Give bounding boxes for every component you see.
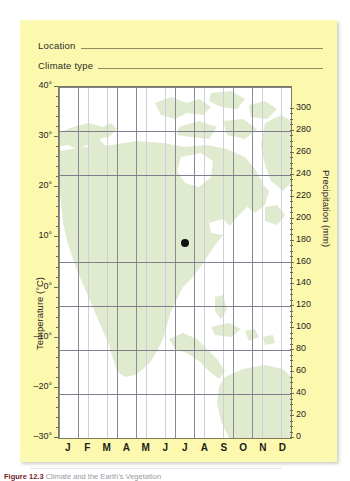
temp-tick-minor [56,246,59,247]
temp-tick-minor [56,156,59,157]
precip-tick-minor [290,223,293,224]
temperature-axis-labels: 40°30°20°10°0°–10°–20°–30° [20,86,52,437]
precipitation-tick-280: 280 [296,125,311,134]
location-write-line[interactable] [81,48,323,49]
precip-tick-major [290,218,294,219]
precip-tick-major [290,174,294,175]
precipitation-tick-60: 60 [296,366,306,375]
precip-tick-minor [290,141,293,142]
precip-tick-minor [290,190,293,191]
temp-tick-minor [56,397,59,398]
precip-tick-minor [290,366,293,367]
precip-tick-minor [290,113,293,114]
temp-tick-major [54,186,58,187]
month-label-8: S [214,440,234,456]
temp-tick-minor [56,307,59,308]
temp-tick-minor [56,317,59,318]
climograph-worksheet-card: Location Climate type [20,20,337,462]
temperature-tick-10: 10° [38,231,52,240]
precip-tick-minor [290,432,293,433]
temperature-tick-40: 40° [38,81,52,90]
temp-tick-minor [56,116,59,117]
temp-tick-minor [56,206,59,207]
temp-tick-minor [56,146,59,147]
precip-tick-minor [290,311,293,312]
month-label-10: N [253,440,273,456]
precip-tick-major [290,327,294,328]
precipitation-tick-260: 260 [296,147,311,156]
precip-tick-major [290,152,294,153]
climate-type-write-line[interactable] [98,68,323,69]
temp-tick-major [54,337,58,338]
temp-tick-minor [56,126,59,127]
month-label-7: A [195,440,215,456]
month-label-9: O [234,440,254,456]
precipitation-tick-240: 240 [296,169,311,178]
precipitation-tick-180: 180 [296,235,311,244]
climate-type-label: Climate type [38,60,93,71]
temp-tick-minor [56,297,59,298]
north-america-map-shape [59,87,291,438]
precip-tick-minor [290,278,293,279]
precip-tick-minor [290,124,293,125]
caption-rule [30,468,282,469]
locator-map [59,87,291,438]
figure-caption: Figure 12.3 Climate and the Earth’s Vege… [4,472,344,481]
location-field-row[interactable]: Location [38,37,323,51]
temp-tick-minor [56,256,59,257]
location-label: Location [38,40,76,51]
climate-type-field-row[interactable]: Climate type [38,57,323,71]
precip-tick-minor [290,245,293,246]
temp-tick-minor [56,357,59,358]
temperature-tick-30: 30° [38,131,52,140]
precip-tick-major [290,196,294,197]
precip-tick-minor [290,135,293,136]
month-label-1: F [78,440,98,456]
precipitation-tick-220: 220 [296,191,311,200]
precip-tick-minor [290,338,293,339]
precip-tick-minor [290,256,293,257]
temperature-tick-ladder [54,86,58,437]
temp-tick-major [54,136,58,137]
temp-tick-major [54,236,58,237]
temperature-tick--20: –20° [33,382,52,391]
temp-tick-minor [56,226,59,227]
precip-tick-minor [290,234,293,235]
precip-tick-minor [290,399,293,400]
temp-tick-minor [56,216,59,217]
precip-tick-minor [290,377,293,378]
temperature-tick--30: –30° [33,432,52,441]
precip-tick-minor [290,300,293,301]
precip-tick-major [290,415,294,416]
precip-tick-minor [290,119,293,120]
precip-tick-minor [290,404,293,405]
month-label-3: A [117,440,137,456]
precip-tick-minor [290,212,293,213]
precipitation-tick-80: 80 [296,344,306,353]
precipitation-tick-40: 40 [296,388,306,397]
precip-tick-minor [290,146,293,147]
temp-tick-minor [56,196,59,197]
climograph-plot-area[interactable] [58,86,292,439]
precip-tick-minor [290,201,293,202]
precip-tick-minor [290,333,293,334]
temp-tick-major [54,437,58,438]
precipitation-tick-0: 0 [296,432,301,441]
precip-tick-major [290,108,294,109]
precip-tick-minor [290,426,293,427]
precip-tick-minor [290,360,293,361]
precipitation-axis-title: Precipitation (mm) [321,170,332,247]
temp-tick-minor [56,367,59,368]
location-marker-dot [181,239,189,247]
temp-tick-minor [56,347,59,348]
temp-tick-minor [56,106,59,107]
precipitation-tick-120: 120 [296,300,311,309]
precip-tick-minor [290,410,293,411]
temp-tick-minor [56,417,59,418]
precip-tick-major [290,371,294,372]
precip-tick-minor [290,229,293,230]
precipitation-tick-200: 200 [296,213,311,222]
precipitation-tick-ladder [290,86,294,437]
month-axis-labels: JFMAMJJASOND [58,440,292,456]
temp-tick-minor [56,166,59,167]
